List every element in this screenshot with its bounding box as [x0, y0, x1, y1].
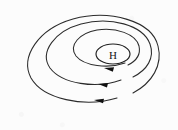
isobar-inner — [73, 29, 139, 66]
isobar-group — [28, 15, 159, 102]
flow-arrow-middle-head — [98, 83, 108, 87]
high-pressure-center-label: H — [109, 49, 117, 61]
figure-container: H — [0, 0, 178, 130]
weather-diagram-svg: H — [0, 0, 178, 130]
isobar-middle — [46, 21, 151, 84]
high-pressure-center-group: H — [96, 44, 130, 64]
flow-arrow-inner-head — [104, 67, 114, 71]
flow-arrow-group — [94, 67, 114, 103]
isobar-outer — [28, 15, 159, 102]
